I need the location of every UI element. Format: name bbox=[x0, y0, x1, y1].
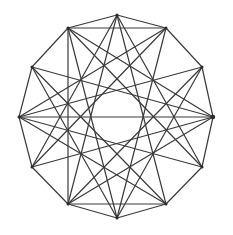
polygon-chord-diagram bbox=[0, 0, 233, 235]
vertex-0 bbox=[116, 14, 119, 17]
vertex-4 bbox=[201, 166, 204, 169]
vertex-2 bbox=[201, 66, 204, 69]
vertex-7 bbox=[67, 203, 70, 206]
vertex-5 bbox=[165, 203, 168, 206]
vertex-9 bbox=[18, 116, 21, 119]
vertex-3 bbox=[211, 115, 215, 119]
vertex-8 bbox=[31, 166, 34, 169]
vertex-10 bbox=[31, 66, 34, 69]
vertex-11 bbox=[67, 27, 70, 30]
vertex-1 bbox=[165, 27, 168, 30]
vertex-6 bbox=[116, 217, 119, 220]
